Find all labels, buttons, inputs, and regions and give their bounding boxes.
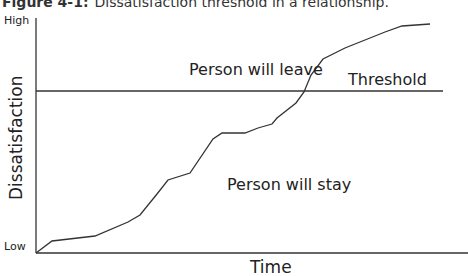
stay-annotation: Person will stay bbox=[227, 175, 351, 194]
x-axis-label: Time bbox=[249, 257, 292, 276]
y-low-label: Low bbox=[4, 240, 26, 253]
y-high-label: High bbox=[4, 14, 29, 27]
leave-annotation: Person will leave bbox=[189, 60, 323, 79]
chart: High Low Dissatisfaction Time Threshold … bbox=[0, 0, 468, 276]
threshold-label: Threshold bbox=[347, 70, 427, 89]
dissatisfaction-curve bbox=[36, 24, 430, 253]
y-axis-label: Dissatisfaction bbox=[6, 75, 26, 200]
